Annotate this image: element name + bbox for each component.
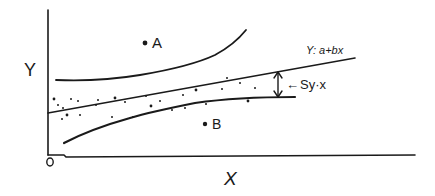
outlier-point-b <box>203 122 207 126</box>
regression-diagram: Y X A B Y: a+bx ← Sy·x <box>0 0 435 196</box>
scatter-point <box>239 82 241 84</box>
scatter-point <box>184 107 186 109</box>
scatter-point <box>57 104 59 106</box>
scatter-point <box>62 107 64 109</box>
scatter-point <box>95 104 97 106</box>
scatter-point <box>124 101 126 103</box>
scatter-point <box>132 116 134 118</box>
scatter-point <box>53 98 56 101</box>
scatter-point <box>111 116 113 118</box>
x-axis-label: X <box>223 168 238 189</box>
upper-band-curve <box>56 30 246 80</box>
scatter-point <box>61 118 63 120</box>
y-axis-label: Y <box>24 60 36 80</box>
scatter-point <box>205 103 207 105</box>
standard-error-label: Sy·x <box>300 77 327 92</box>
outlier-point-a <box>143 41 148 46</box>
scatter-point <box>79 114 81 116</box>
scatter-point <box>159 100 161 102</box>
scatter-point <box>77 100 79 102</box>
outlier-label-b: B <box>212 116 221 132</box>
x-axis <box>48 155 415 157</box>
scatter-point <box>195 89 198 92</box>
scatter-point <box>226 77 228 79</box>
scatter-point <box>171 109 173 111</box>
scatter-point <box>221 88 223 90</box>
scatter-point <box>182 94 184 96</box>
origin-marker <box>47 158 53 166</box>
equation-label: Y: a+bx <box>306 44 344 56</box>
scatter-points <box>53 77 256 120</box>
scatter-point <box>145 95 147 97</box>
error-pointer-arrow: ← <box>286 77 299 92</box>
scatter-point <box>66 114 69 117</box>
standard-error-arrow <box>274 72 282 97</box>
scatter-point <box>247 100 250 103</box>
scatter-point <box>254 87 256 89</box>
scatter-point <box>97 99 99 101</box>
scatter-point <box>114 97 117 100</box>
scatter-point <box>150 105 153 108</box>
scatter-point <box>70 98 72 100</box>
outlier-label-a: A <box>152 34 162 51</box>
